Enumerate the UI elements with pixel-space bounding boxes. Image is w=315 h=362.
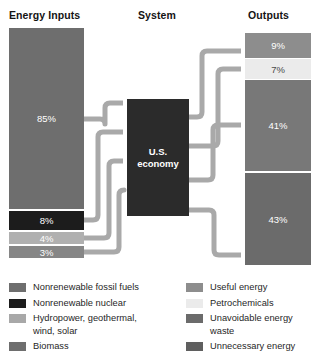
legend-swatch-icon <box>186 299 203 308</box>
legend-outputs: Useful energy Petrochemicals Unavoidable… <box>186 281 314 356</box>
legend-item: Unnecessary energy <box>186 340 314 353</box>
flow-economy-to-petro <box>189 69 241 146</box>
legend-item-label: Hydropower, geothermal, wind, solar <box>33 312 137 337</box>
legend-swatch-icon <box>9 299 26 308</box>
legend-item-label: Useful energy <box>210 281 267 294</box>
legend-item: Biomass <box>9 340 179 353</box>
legend-swatch-icon <box>186 342 203 351</box>
legend-item: Useful energy <box>186 281 314 294</box>
output-segment-unavoidable-energy-waste: 41% <box>245 80 311 171</box>
flow-fossil-to-economy <box>84 103 123 124</box>
legend-item-label: Biomass <box>33 340 69 353</box>
diagram-canvas: Energy Inputs System Outputs 85% 8% 4% 3… <box>0 0 315 362</box>
system-box-line-1: U.S. <box>149 146 167 158</box>
legend-item: Hydropower, geothermal, wind, solar <box>9 312 179 337</box>
legend-swatch-icon <box>9 283 26 292</box>
input-segment-nonrenewable-fossil-fuels: 85% <box>9 28 84 209</box>
legend-swatch-icon <box>186 314 203 323</box>
legend-item: Unavoidable energy waste <box>186 312 314 337</box>
legend-item-label: Nonrenewable nuclear <box>33 297 126 310</box>
legend-swatch-icon <box>9 314 26 323</box>
input-segment-nonrenewable-nuclear: 8% <box>9 211 84 230</box>
flow-nuclear-to-economy <box>84 132 123 220</box>
column-title-energy-inputs: Energy Inputs <box>9 9 80 21</box>
flow-biomass-to-economy <box>84 190 124 252</box>
flow-economy-to-useful <box>189 51 241 117</box>
legend-item: Petrochemicals <box>186 297 314 310</box>
legend-item: Nonrenewable fossil fuels <box>9 281 179 294</box>
legend-item-label: Nonrenewable fossil fuels <box>33 281 139 294</box>
output-segment-petrochemicals: 7% <box>245 59 311 79</box>
input-segment-hydro-geothermal-wind-solar: 4% <box>9 232 84 244</box>
system-box-us-economy: U.S. economy <box>127 99 189 216</box>
legend-swatch-icon <box>9 342 26 351</box>
legend-swatch-icon <box>186 283 203 292</box>
legend-energy-inputs: Nonrenewable fossil fuels Nonrenewable n… <box>9 281 179 356</box>
legend-item: Nonrenewable nuclear <box>9 297 179 310</box>
column-title-outputs: Outputs <box>248 9 289 21</box>
legend-item-label: Unavoidable energy waste <box>210 312 293 337</box>
input-segment-biomass: 3% <box>9 246 84 258</box>
flow-renew-to-economy <box>84 161 123 238</box>
flow-economy-to-unnec <box>189 210 241 255</box>
column-title-system: System <box>138 9 176 21</box>
system-box-line-2: economy <box>137 158 179 170</box>
output-segment-unnecessary-energy: 43% <box>245 173 311 265</box>
output-segment-useful-energy: 9% <box>245 33 311 58</box>
legend-item-label: Petrochemicals <box>210 297 274 310</box>
legend-item-label: Unnecessary energy <box>210 340 295 353</box>
flow-economy-to-unavoid <box>189 125 241 180</box>
